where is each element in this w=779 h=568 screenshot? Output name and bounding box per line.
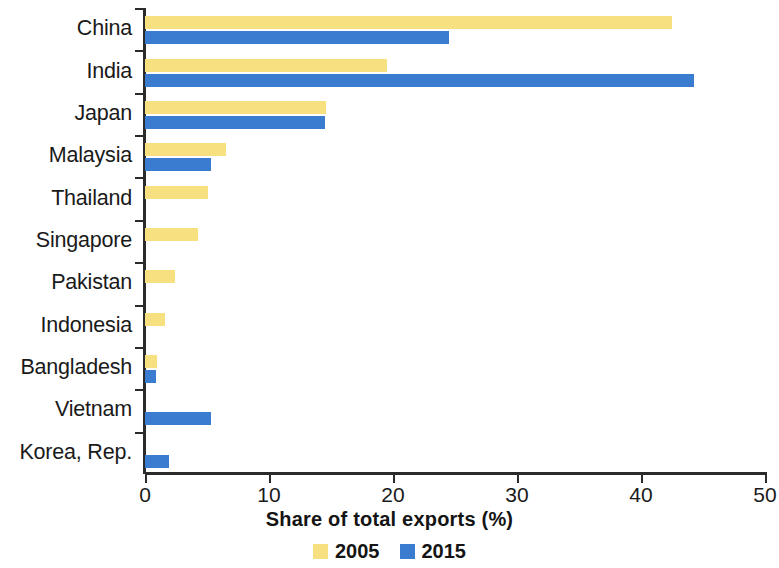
y-axis-category-label: Bangladesh (20, 355, 132, 380)
chart-category-row: Indonesia (145, 305, 765, 347)
chart-category-row: India (145, 50, 765, 92)
y-axis-tick (135, 389, 146, 391)
legend-swatch-2005 (313, 544, 328, 559)
y-axis-category-label: Pakistan (51, 270, 132, 295)
x-axis-tick-label: 0 (139, 483, 151, 507)
chart-category-row: Korea, Rep. (145, 432, 765, 474)
chart-category-row: Bangladesh (145, 347, 765, 389)
chart-legend: 20052015 (0, 540, 779, 563)
chart-category-row: Singapore (145, 220, 765, 262)
bar-china-2015 (145, 31, 449, 44)
legend-swatch-2015 (400, 544, 415, 559)
y-axis-category-label: China (77, 16, 132, 41)
bar-malaysia-2005 (145, 143, 226, 156)
x-axis-title: Share of total exports (%) (0, 508, 779, 531)
y-axis-category-label: Korea, Rep. (19, 440, 132, 465)
y-axis-category-label: India (86, 59, 132, 84)
x-axis-tick (393, 472, 395, 483)
x-axis-tick (641, 472, 643, 483)
y-axis-tick (135, 93, 146, 95)
bar-singapore-2005 (145, 228, 198, 241)
bar-china-2005 (145, 16, 672, 29)
y-axis-tick (135, 262, 146, 264)
bar-korea-rep-2015 (145, 455, 169, 468)
bar-japan-2005 (145, 101, 326, 114)
x-axis-tick (765, 472, 767, 483)
y-axis-category-label: Singapore (36, 228, 132, 253)
bar-bangladesh-2015 (145, 370, 156, 383)
y-axis-tick (135, 432, 146, 434)
bar-indonesia-2005 (145, 313, 165, 326)
x-axis-tick (145, 472, 147, 483)
bar-india-2005 (145, 59, 387, 72)
x-axis-tick (269, 472, 271, 483)
bar-chart: ChinaIndiaJapanMalaysiaThailandSingapore… (0, 0, 779, 568)
bar-india-2015 (145, 74, 694, 87)
chart-category-row: Japan (145, 93, 765, 135)
legend-item-2005: 2005 (313, 540, 380, 563)
legend-label-2015: 2015 (422, 540, 467, 563)
chart-category-row: Vietnam (145, 389, 765, 431)
bar-malaysia-2015 (145, 158, 211, 171)
y-axis-category-label: Indonesia (41, 313, 132, 338)
x-axis-tick (517, 472, 519, 483)
y-axis-category-label: Malaysia (49, 143, 132, 168)
chart-category-row: China (145, 8, 765, 50)
y-axis-category-label: Vietnam (55, 397, 132, 422)
x-axis-tick-label: 10 (257, 483, 280, 507)
x-axis-tick-label: 40 (629, 483, 652, 507)
bar-bangladesh-2005 (145, 355, 157, 368)
y-axis-tick (135, 220, 146, 222)
y-axis-category-label: Japan (74, 101, 132, 126)
y-axis-tick (135, 305, 146, 307)
y-axis-tick (135, 50, 146, 52)
x-axis-tick-label: 30 (505, 483, 528, 507)
chart-category-row: Thailand (145, 177, 765, 219)
plot-area: ChinaIndiaJapanMalaysiaThailandSingapore… (145, 8, 765, 474)
x-axis-tick-label: 20 (381, 483, 404, 507)
y-axis-tick (135, 177, 146, 179)
legend-label-2005: 2005 (335, 540, 380, 563)
bar-thailand-2005 (145, 186, 208, 199)
chart-category-row: Pakistan (145, 262, 765, 304)
y-axis-tick (135, 347, 146, 349)
bar-vietnam-2015 (145, 412, 211, 425)
bar-pakistan-2005 (145, 270, 175, 283)
y-axis-tick (135, 8, 146, 10)
x-axis-tick-label: 50 (753, 483, 776, 507)
bar-japan-2015 (145, 116, 325, 129)
y-axis-category-label: Thailand (51, 186, 132, 211)
chart-category-row: Malaysia (145, 135, 765, 177)
y-axis-tick (135, 135, 146, 137)
legend-item-2015: 2015 (400, 540, 467, 563)
